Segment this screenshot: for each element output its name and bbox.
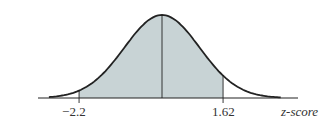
tick-label-left: −2.2 <box>62 104 86 120</box>
x-axis-label: z-score <box>281 104 318 120</box>
tick-label-right: 1.62 <box>212 104 235 120</box>
shaded-area <box>79 15 223 98</box>
